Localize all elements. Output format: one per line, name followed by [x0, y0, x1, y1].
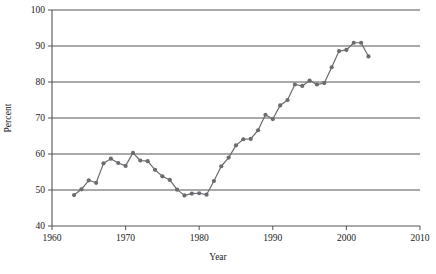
- data-point-marker: [182, 193, 186, 197]
- data-point-marker: [352, 41, 356, 45]
- data-point-marker: [109, 157, 113, 161]
- data-point-marker: [160, 174, 164, 178]
- chart-canvas: 405060708090100 196019701980199020002010: [0, 0, 436, 274]
- x-tick-label: 2010: [411, 233, 430, 243]
- y-axis-ticks: 405060708090100: [31, 5, 52, 231]
- data-point-marker: [131, 151, 135, 155]
- data-point-marker: [212, 179, 216, 183]
- data-point-marker: [138, 158, 142, 162]
- line-chart: 405060708090100 196019701980199020002010…: [0, 0, 436, 274]
- data-point-marker: [322, 81, 326, 85]
- data-point-marker: [344, 48, 348, 52]
- data-point-marker: [227, 156, 231, 160]
- x-tick-label: 1960: [43, 233, 62, 243]
- data-point-marker: [168, 178, 172, 182]
- data-point-marker: [219, 164, 223, 168]
- data-point-marker: [197, 191, 201, 195]
- data-point-marker: [278, 103, 282, 107]
- data-point-marker: [300, 84, 304, 88]
- y-tick-label: 40: [36, 221, 46, 231]
- data-point-marker: [153, 168, 157, 172]
- x-tick-label: 1980: [190, 233, 209, 243]
- data-point-marker: [72, 193, 76, 197]
- data-point-marker: [263, 113, 267, 117]
- data-point-marker: [175, 188, 179, 192]
- data-point-marker: [330, 65, 334, 69]
- data-point-marker: [116, 161, 120, 165]
- y-tick-label: 100: [31, 5, 46, 15]
- y-tick-label: 90: [36, 41, 46, 51]
- data-point-marker: [79, 187, 83, 191]
- data-series-line: [74, 43, 368, 196]
- y-tick-label: 70: [36, 113, 46, 123]
- y-tick-label: 60: [36, 149, 46, 159]
- data-point-marker: [256, 128, 260, 132]
- data-point-marker: [94, 181, 98, 185]
- data-point-marker: [337, 49, 341, 53]
- gridlines: [52, 10, 420, 190]
- data-point-marker: [124, 164, 128, 168]
- data-point-marker: [315, 82, 319, 86]
- y-tick-label: 50: [36, 185, 46, 195]
- data-point-marker: [359, 41, 363, 45]
- data-point-marker: [204, 193, 208, 197]
- data-point-marker: [293, 82, 297, 86]
- data-point-marker: [308, 78, 312, 82]
- data-point-marker: [249, 137, 253, 141]
- data-point-marker: [366, 54, 370, 58]
- data-point-marker: [241, 137, 245, 141]
- y-tick-label: 80: [36, 77, 46, 87]
- data-series-markers: [72, 41, 371, 198]
- data-point-marker: [190, 192, 194, 196]
- x-tick-label: 1970: [116, 233, 135, 243]
- data-point-marker: [87, 178, 91, 182]
- data-point-marker: [101, 161, 105, 165]
- x-axis-ticks: 196019701980199020002010: [43, 226, 430, 243]
- data-point-marker: [285, 98, 289, 102]
- x-tick-label: 2000: [337, 233, 356, 243]
- data-point-marker: [271, 117, 275, 121]
- x-tick-label: 1990: [263, 233, 282, 243]
- data-point-marker: [146, 159, 150, 163]
- data-point-marker: [234, 143, 238, 147]
